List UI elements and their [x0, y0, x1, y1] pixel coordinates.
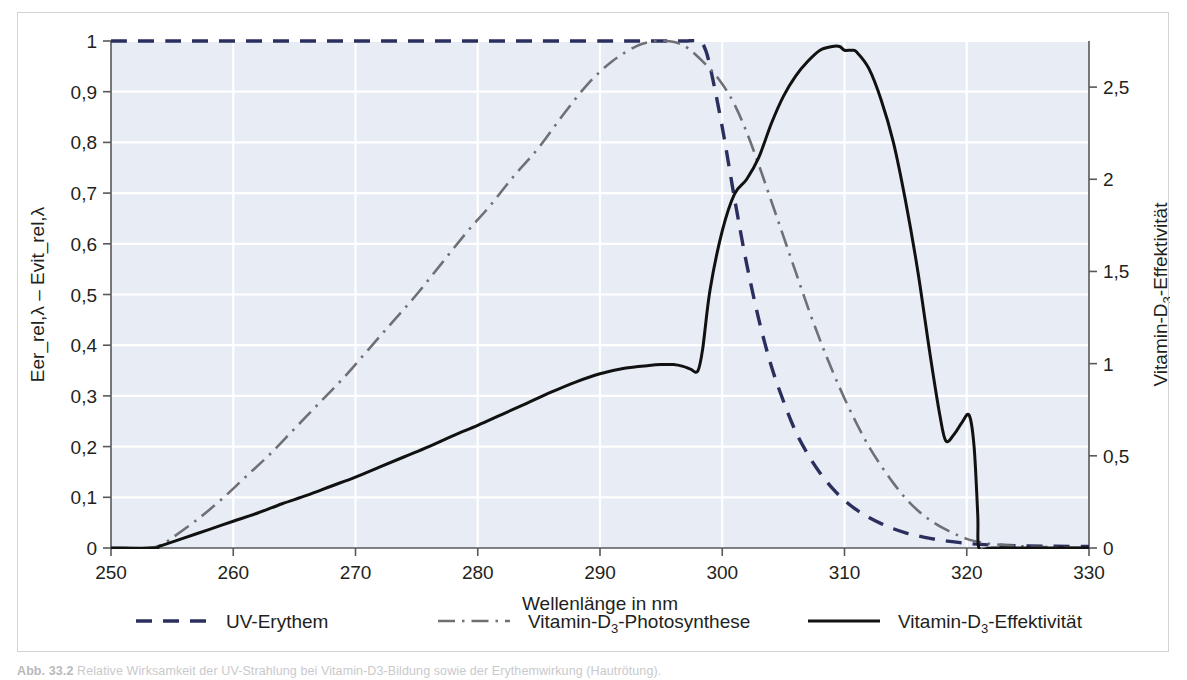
xtick-label: 330: [1073, 562, 1105, 583]
chart-svg: 00,10,20,30,40,50,60,70,80,9100,511,522,…: [18, 13, 1170, 653]
ytick-label-left: 0: [86, 538, 97, 559]
ytick-label-left: 0,8: [71, 132, 97, 153]
xtick-label: 280: [462, 562, 494, 583]
yaxis-title-right: Vitamin-D3-Effektivität: [1150, 202, 1170, 387]
ytick-label-left: 0,2: [71, 437, 97, 458]
figure-caption: Abb. 33.2 Relative Wirksamkeit der UV-St…: [17, 664, 1169, 678]
figure-card: 00,10,20,30,40,50,60,70,80,9100,511,522,…: [17, 12, 1169, 652]
xtick-label: 260: [217, 562, 249, 583]
ytick-label-left: 0,9: [71, 82, 97, 103]
ytick-label-left: 0,1: [71, 487, 97, 508]
xtick-label: 310: [829, 562, 861, 583]
xtick-label: 300: [706, 562, 738, 583]
ytick-label-right: 2,5: [1103, 77, 1129, 98]
ytick-label-right: 1: [1103, 354, 1114, 375]
yaxis-title-left: Eer_rel,λ – Evit_rel,λ: [27, 206, 49, 382]
legend-label-1: Vitamin-D3-Photosynthese: [528, 611, 750, 636]
xtick-label: 270: [340, 562, 372, 583]
ytick-label-right: 1,5: [1103, 261, 1129, 282]
ytick-label-right: 2: [1103, 169, 1114, 190]
legend-label-0: UV-Erythem: [226, 611, 328, 632]
caption-prefix: Abb. 33.2: [17, 664, 73, 678]
ytick-label-right: 0: [1103, 538, 1114, 559]
ytick-label-left: 0,5: [71, 285, 97, 306]
ytick-label-left: 0,7: [71, 183, 97, 204]
legend-label-2: Vitamin-D3-Effektivität: [898, 611, 1083, 636]
xtick-label: 250: [95, 562, 127, 583]
xtick-label: 290: [584, 562, 616, 583]
ytick-label-left: 0,6: [71, 234, 97, 255]
ytick-label-left: 0,4: [71, 335, 98, 356]
ytick-label-right: 0,5: [1103, 446, 1129, 467]
caption-text: Relative Wirksamkeit der UV-Strahlung be…: [77, 664, 661, 678]
xtick-label: 320: [951, 562, 983, 583]
ytick-label-left: 0,3: [71, 386, 97, 407]
ytick-label-left: 1: [86, 31, 97, 52]
